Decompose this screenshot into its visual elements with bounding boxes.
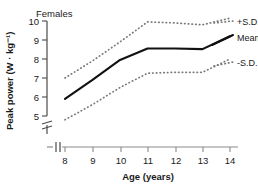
x-tick-label-14: 14 <box>225 155 236 166</box>
y-tick-label-10: 10 <box>28 16 39 27</box>
y-tick-label-6: 6 <box>34 92 39 103</box>
y-axis-title: Peak power (W · kg⁻¹) <box>4 32 15 130</box>
y-tick-label-9: 9 <box>34 35 39 46</box>
chart-figure: Females Peak power (W · kg⁻¹) 10 9 8 7 6… <box>0 0 258 188</box>
y-tick-label-8: 8 <box>34 54 39 65</box>
x-tick-label-10: 10 <box>116 155 127 166</box>
x-tick-label-11: 11 <box>143 155 153 166</box>
legend-label-mean: Mean <box>237 33 258 43</box>
x-axis-title: Age (years) <box>122 171 174 182</box>
legend: +S.D. Mean -S.D. <box>237 17 258 68</box>
legend-label-plus-sd: +S.D. <box>237 17 258 27</box>
x-tick-label-13: 13 <box>198 155 209 166</box>
x-tick-label-12: 12 <box>171 155 182 166</box>
panel-title: Females <box>36 8 73 19</box>
legend-label-minus-sd: -S.D. <box>237 58 258 68</box>
y-tick-label-5: 5 <box>34 111 39 122</box>
peak-power-line-chart: Females Peak power (W · kg⁻¹) 10 9 8 7 6… <box>0 0 258 188</box>
x-tick-label-9: 9 <box>90 155 95 166</box>
y-tick-label-7: 7 <box>34 73 39 84</box>
x-tick-label-8: 8 <box>62 155 67 166</box>
